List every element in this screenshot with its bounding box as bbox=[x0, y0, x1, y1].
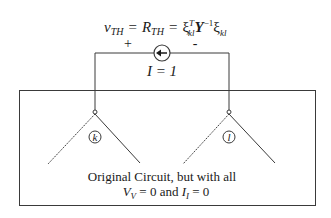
node-l: l bbox=[183, 110, 275, 164]
minus-label: - bbox=[193, 36, 198, 51]
current-label: I = 1 bbox=[146, 63, 177, 79]
node-k: k bbox=[48, 110, 140, 164]
node-k-label: k bbox=[93, 131, 99, 143]
current-source-icon bbox=[154, 45, 170, 61]
node-l-label: l bbox=[227, 131, 230, 143]
caption-line1: Original Circuit, but with all bbox=[88, 169, 237, 184]
equation: vTH=RTH=ξTklY−1ξkl bbox=[104, 18, 227, 38]
caption-line2: VV = 0 and II = 0 bbox=[123, 184, 210, 201]
plus-label: + bbox=[124, 36, 132, 51]
thevenin-diagram: vTH=RTH=ξTklY−1ξkl + - I = 1 k l Origina… bbox=[0, 0, 331, 218]
